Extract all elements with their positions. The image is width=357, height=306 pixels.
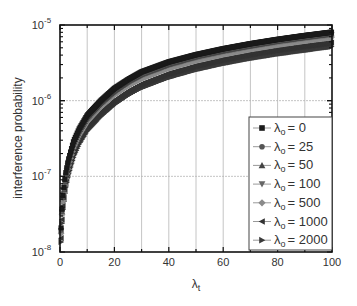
y-tick-label: 10 [32,170,44,182]
x-tick-label: 20 [108,256,120,268]
y-tick-exponent: -5 [44,16,52,25]
legend-label: λo= 0 [274,120,306,137]
x-tick-label: 40 [163,256,175,268]
x-axis-title-subscript: t [198,283,201,293]
x-tick-label: 100 [323,256,341,268]
square-marker-icon [259,125,265,131]
square-marker-icon [62,177,67,182]
y-tick-exponent: -8 [44,243,52,252]
x-tick-label: 0 [57,256,63,268]
legend: λo= 0λo= 25λo= 50λo= 100λo= 500λo= 1000λ… [249,117,332,250]
square-marker-icon [61,185,66,190]
x-axis-title: λt [192,277,201,293]
y-tick-exponent: -7 [44,167,52,176]
square-marker-icon [64,165,69,170]
x-tick-label: 80 [271,256,283,268]
y-tick-label: 10 [32,95,44,107]
square-marker-icon [60,193,65,198]
circle-marker-icon [259,144,265,150]
y-tick-exponent: -6 [44,92,52,101]
legend-label: λo= 50 [274,157,313,174]
square-marker-icon [63,170,68,175]
chart: 02040608010010-810-710-610-5 interferenc… [0,0,357,306]
y-tick-label: 10 [32,19,44,31]
y-axis-title: interference probability [11,77,25,198]
y-tick-label: 10 [32,246,44,258]
x-tick-label: 60 [217,256,229,268]
legend-label: λo= 25 [274,139,313,156]
